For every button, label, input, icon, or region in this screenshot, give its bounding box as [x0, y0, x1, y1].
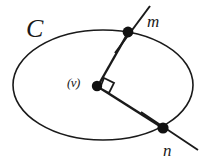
point-m-dot [123, 27, 134, 38]
radius-segment-center-to-m [99, 33, 128, 84]
label-center-point: (v) [67, 76, 80, 89]
label-curve-c: C [26, 16, 43, 42]
label-point-m: m [147, 13, 159, 30]
label-point-n: n [163, 142, 172, 159]
geometry-figure: C m n (v) [0, 0, 208, 165]
center-point-dot [92, 81, 102, 91]
point-n-dot [157, 122, 168, 133]
